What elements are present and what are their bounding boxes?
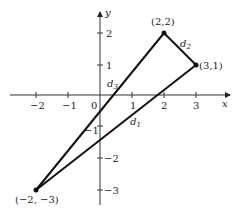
y-tick-label: −3 [104, 185, 119, 196]
segment-label-d1: d1 [130, 116, 141, 129]
x-tick-label: 1 [130, 100, 136, 111]
x-tick-label: −1 [62, 100, 77, 111]
y-tick-label: −2 [104, 153, 119, 164]
point-label: (−2, −3) [15, 194, 59, 205]
y-tick-label: −1 [84, 125, 99, 136]
x-axis-label: x [222, 98, 228, 109]
segment-label-d3: d3 [107, 78, 118, 91]
x-tick-label: 0 [91, 100, 97, 111]
x-tick-label: 3 [193, 100, 199, 111]
point-2-2 [162, 31, 167, 36]
y-tick-label: 1 [106, 60, 112, 71]
coordinate-diagram: −2 −1 0 1 2 3 x 2 1 −1 −2 −3 y (2,2) (3,… [0, 0, 237, 217]
y-tick-label: 2 [106, 28, 112, 39]
segment-label-d2: d2 [180, 38, 191, 51]
y-axis-label: y [104, 7, 111, 18]
x-tick-label: −2 [30, 100, 45, 111]
point-neg2-neg3 [34, 188, 39, 193]
point-3-1 [194, 63, 199, 68]
point-label: (3,1) [199, 60, 223, 71]
x-tick-label: 2 [161, 100, 167, 111]
point-label: (2,2) [151, 16, 175, 27]
